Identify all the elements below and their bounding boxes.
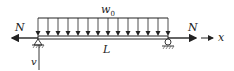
- deflection-label: v: [31, 56, 37, 67]
- load-arrowhead-icon: [66, 31, 71, 36]
- length-label: L: [102, 43, 110, 56]
- axial-force-right-label: N: [187, 21, 198, 34]
- load-arrowhead-icon: [146, 31, 151, 36]
- load-arrowhead-icon: [166, 31, 171, 36]
- load-arrowhead-icon: [156, 31, 161, 36]
- axial-force-left-label: N: [14, 21, 25, 34]
- load-arrowhead-icon: [96, 31, 101, 36]
- load-arrowhead-icon: [86, 31, 91, 36]
- roller-support-right: [162, 39, 174, 49]
- beam-diagram: N N x w0 L v: [0, 0, 234, 71]
- load-arrowhead-icon: [36, 31, 41, 36]
- pin-support-left: [32, 39, 44, 48]
- load-arrowhead-icon: [116, 31, 121, 36]
- load-label: w0: [101, 3, 115, 18]
- load-arrowhead-icon: [76, 31, 81, 36]
- load-arrowhead-icon: [56, 31, 61, 36]
- beam: [38, 36, 168, 39]
- load-arrowhead-icon: [106, 31, 111, 36]
- x-axis-label: x: [218, 31, 225, 44]
- load-arrowhead-icon: [136, 31, 141, 36]
- load-arrowhead-icon: [126, 31, 131, 36]
- load-arrowhead-icon: [46, 31, 51, 36]
- distributed-load-arrows: [36, 18, 171, 36]
